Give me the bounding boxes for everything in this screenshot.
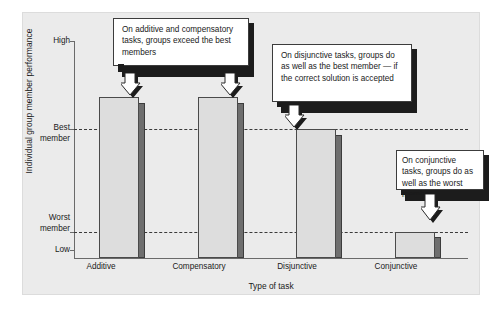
- bar-compensatory-face: [198, 97, 238, 258]
- x-axis-line: [74, 258, 468, 259]
- y-tick-label-worst-line2: member: [16, 224, 70, 235]
- bar-additive-side: [138, 103, 145, 258]
- bar-conjunctive: [395, 232, 441, 258]
- bar-additive-face: [99, 97, 139, 258]
- callout-conjunctive-connector: [405, 195, 489, 201]
- x-tick-label-conjunctive: Conjunctive: [361, 262, 431, 271]
- arrow-to-conjunctive-bar: [421, 194, 445, 224]
- y-tick-label-best-line2: member: [16, 134, 70, 145]
- bar-disjunctive-face: [296, 129, 336, 258]
- y-tick-label-best-member: Best member: [16, 123, 70, 144]
- x-tick-label-additive: Additive: [69, 262, 133, 271]
- bar-disjunctive: [296, 129, 342, 258]
- bar-compensatory: [198, 97, 244, 258]
- y-tick-label-worst-member: Worst member: [16, 213, 70, 234]
- bar-disjunctive-side: [335, 135, 342, 258]
- arrow-to-additive-bar: [121, 73, 145, 99]
- y-tick-label-worst-line1: Worst: [16, 213, 70, 224]
- y-axis-title: Individual group member performance: [24, 6, 34, 196]
- bar-additive: [99, 97, 145, 258]
- y-tick-label-high: High: [16, 36, 70, 46]
- arrow-to-compensatory-bar: [221, 73, 245, 99]
- callout-additive-compensatory-text: On additive and compensatory tasks, grou…: [113, 18, 249, 66]
- arrow-to-disjunctive-bar: [285, 105, 309, 131]
- y-tick-label-best-line1: Best: [16, 123, 70, 134]
- bar-conjunctive-side: [434, 237, 441, 258]
- figure-root: Individual group member performance High…: [0, 0, 503, 311]
- callout-additive-connector-stub: [118, 64, 124, 72]
- x-tick-label-compensatory: Compensatory: [158, 262, 240, 271]
- bar-conjunctive-face: [395, 232, 435, 258]
- y-tick-label-low: Low: [16, 245, 70, 255]
- callout-additive-compensatory: On additive and compensatory tasks, grou…: [113, 18, 249, 66]
- x-tick-label-disjunctive: Disjunctive: [262, 262, 332, 271]
- x-axis-title: Type of task: [74, 281, 468, 291]
- callout-disjunctive: On disjunctive tasks, groups do as well …: [272, 44, 412, 102]
- callout-conjunctive: On conjunctive tasks, groups do as well …: [396, 150, 484, 190]
- callout-disjunctive-text: On disjunctive tasks, groups do as well …: [272, 44, 412, 102]
- callout-conjunctive-text: On conjunctive tasks, groups do as well …: [396, 150, 484, 190]
- bar-compensatory-side: [237, 103, 244, 258]
